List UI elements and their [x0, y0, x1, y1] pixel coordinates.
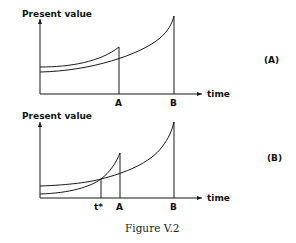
tick-label-a: A — [116, 202, 123, 212]
curve-a — [40, 153, 120, 194]
tick-label-b: B — [170, 202, 177, 212]
panel-a: Present value time A B (A) — [22, 9, 279, 108]
x-axis-label: time — [207, 193, 230, 203]
tick-label-a: A — [115, 98, 122, 108]
y-axis-label: Present value — [22, 111, 92, 121]
panel-label: (B) — [267, 153, 282, 163]
panel-b: Present value time t* A B (B) — [22, 111, 282, 212]
curve-a — [40, 47, 119, 67]
figure-canvas: Present value time A B (A) Present value… — [0, 0, 296, 243]
curve-b — [40, 122, 174, 186]
tick-label-t-star: t* — [94, 202, 103, 212]
curve-b — [40, 16, 174, 72]
x-axis-label: time — [207, 89, 230, 99]
tick-label-b: B — [170, 98, 177, 108]
panel-label: (A) — [264, 55, 279, 65]
figure-caption: Figure V.2 — [125, 222, 179, 234]
y-axis-label: Present value — [22, 9, 92, 19]
